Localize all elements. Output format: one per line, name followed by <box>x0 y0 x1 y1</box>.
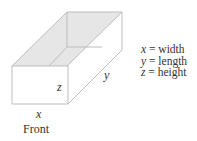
legend-row-height: z = height <box>141 67 187 79</box>
label-x: x <box>36 108 41 120</box>
variable-legend: x = width y = length z = height <box>141 44 187 79</box>
label-front: Front <box>23 123 49 135</box>
right-bottom-edge <box>68 50 122 104</box>
label-z: z <box>57 81 62 93</box>
label-y: y <box>104 69 109 81</box>
